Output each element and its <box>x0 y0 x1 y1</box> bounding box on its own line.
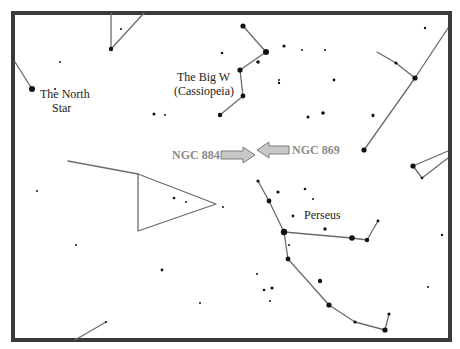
star-dot <box>185 201 187 203</box>
star-dot <box>75 244 77 246</box>
star-dot <box>222 206 224 208</box>
star-dot <box>36 190 38 192</box>
cassiopeia-label-line1: The Big W <box>177 70 231 84</box>
star-dot <box>256 273 258 275</box>
star-dot <box>421 177 424 180</box>
star-dot <box>153 113 156 116</box>
star-dot <box>278 79 280 81</box>
star-dot <box>365 238 369 242</box>
star-dot <box>301 49 303 51</box>
star-dot <box>326 302 331 307</box>
star-dot <box>377 220 380 223</box>
star-dot <box>441 234 443 236</box>
star-dot <box>318 279 322 283</box>
star-dot <box>256 60 260 64</box>
star-dot <box>353 320 356 323</box>
star-dot <box>267 199 272 204</box>
star-dot <box>270 286 273 289</box>
star-dot <box>256 179 259 182</box>
star-dot <box>199 302 201 304</box>
star-dot <box>269 300 271 302</box>
perseus-label: Perseus <box>304 208 341 222</box>
star-dot <box>312 198 314 200</box>
star-dot <box>323 227 326 230</box>
star-dot <box>387 312 390 315</box>
star-dot <box>282 44 285 47</box>
ngc869-label: NGC 869 <box>292 143 340 157</box>
star-dot <box>286 257 291 262</box>
star-dot <box>372 115 375 118</box>
star-chart: The North Star The Big W (Cassiopeia) Pe… <box>0 0 460 349</box>
star-dot <box>59 61 61 63</box>
star-dot <box>173 197 176 200</box>
cassiopeia-label-line2: (Cassiopeia) <box>174 84 234 98</box>
star-dot <box>361 147 366 152</box>
star-dot <box>237 67 242 72</box>
north-star-label-line1: The North <box>40 87 90 101</box>
star-dot <box>221 52 224 55</box>
star-dot <box>382 327 387 332</box>
star-dot <box>164 114 166 116</box>
star-dot <box>324 49 326 51</box>
star-dot <box>394 61 397 64</box>
star-dot <box>281 229 287 235</box>
star-dot <box>278 82 280 84</box>
star-dot <box>424 27 426 29</box>
star-dot <box>307 116 310 119</box>
star-dot <box>292 215 295 218</box>
star-dot <box>29 86 35 92</box>
star-dot <box>288 244 290 246</box>
star-dot <box>321 111 325 115</box>
star-dot <box>410 163 415 168</box>
north-star-label-line2: Star <box>52 101 71 115</box>
star-dot <box>427 286 429 288</box>
star-dot <box>105 321 107 323</box>
star-dot <box>120 28 122 30</box>
star-dot <box>240 23 245 28</box>
star-dot <box>276 190 279 193</box>
star-dot <box>161 269 164 272</box>
star-dot <box>349 235 355 241</box>
chart-frame <box>13 13 450 340</box>
star-dot <box>241 94 246 99</box>
star-dot <box>263 289 266 292</box>
star-dot <box>412 75 417 80</box>
star-dot <box>109 47 113 51</box>
star-dot <box>263 49 269 55</box>
star-dot <box>304 188 307 191</box>
ngc884-label: NGC 884 <box>172 148 220 162</box>
star-dot <box>333 79 336 82</box>
star-dot <box>218 113 222 117</box>
